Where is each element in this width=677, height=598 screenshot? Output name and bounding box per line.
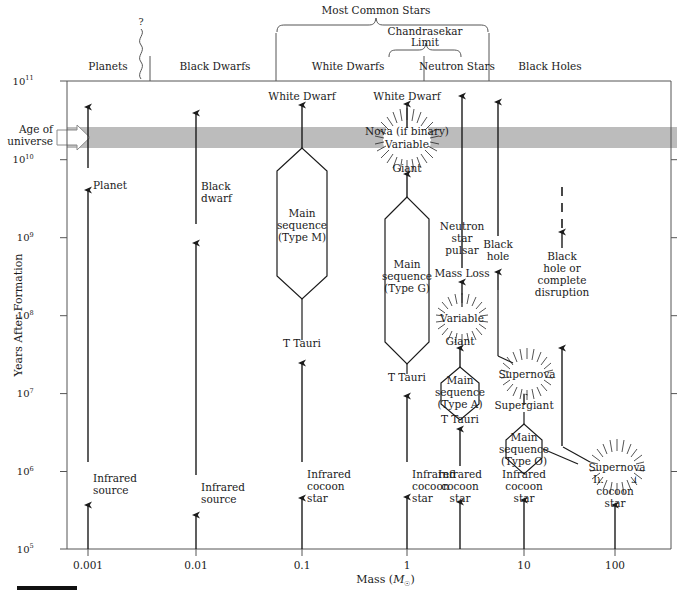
y-tick: 109: [0, 228, 67, 243]
y-tick-exponent: 5: [30, 542, 34, 550]
y-axis-title: Years After Formation: [12, 254, 25, 378]
stage-label: Black: [483, 238, 513, 250]
x-axis-title: Mass (M☉): [332, 573, 432, 588]
x-axis-title-main: Mass (: [356, 573, 393, 586]
y-tick: 107: [0, 384, 67, 399]
stage-label: Infrared: [307, 468, 351, 480]
uncertainty-wavy-line: ?: [138, 16, 143, 79]
stage-label: source: [93, 484, 129, 496]
stage-label: dwarf: [201, 192, 233, 204]
stage-label: sequence: [277, 219, 327, 231]
stage-label: (Type G): [384, 282, 430, 294]
stage-label: Main: [446, 374, 473, 386]
stage-label: star: [412, 492, 434, 504]
stage-label: Variable: [384, 138, 429, 150]
y-tick-mantissa: 10: [17, 388, 30, 399]
x-tick-label: 100: [605, 559, 625, 571]
x-tick: 0.1: [294, 549, 311, 571]
y-tick-exponent: 8: [30, 309, 34, 317]
x-tick: 0.01: [184, 549, 207, 571]
stage-label: Main: [510, 431, 537, 443]
x-tick: 1: [404, 549, 411, 571]
bracket-label-most-common-stars: Most Common Stars: [322, 4, 431, 16]
stage-label: star: [514, 492, 536, 504]
y-tick-mantissa: 10: [17, 544, 30, 555]
y-tick-exponent: 6: [30, 465, 34, 473]
svg-text:106: 106: [0, 462, 56, 477]
x-tick: 100: [605, 549, 625, 571]
x-axis: 0.001 0.01 0.1 1 10 100 Mass (M☉): [73, 549, 625, 588]
figure-canvas: Age of universe 1011 1010 109: [0, 0, 677, 598]
stage-label: sequence: [382, 270, 432, 282]
track-10: Infrared cocoon star Main sequence (Type…: [483, 102, 578, 549]
stage-label: Infrared: [438, 468, 482, 480]
top-category-neutron-stars: Neutron Stars: [419, 60, 495, 72]
stage-label: Variable: [439, 312, 484, 324]
stage-label: Black: [547, 250, 577, 262]
y-tick-mantissa: 10: [17, 466, 30, 477]
y-tick: 1010: [0, 150, 67, 165]
y-tick-exponent: 11: [25, 74, 33, 82]
uncertainty-question-mark: ?: [138, 16, 143, 27]
svg-text:105: 105: [0, 539, 56, 554]
stage-label: Main: [288, 207, 315, 219]
stage-label: White Dwarf: [373, 90, 441, 102]
stage-label: Main: [393, 258, 420, 270]
stage-label: star: [605, 497, 627, 509]
stage-label: star: [452, 232, 474, 244]
stage-label: Neutron: [440, 220, 485, 232]
stage-label: hole: [487, 250, 510, 262]
y-tick-mantissa: 10: [17, 232, 30, 243]
x-axis-title-symbol: M: [392, 573, 405, 586]
x-tick: 10: [517, 549, 530, 571]
stage-label: pulsar: [445, 244, 479, 256]
y-tick-mantissa: 10: [13, 154, 26, 165]
svg-text:109: 109: [0, 228, 56, 243]
stage-label: Supernova: [588, 461, 645, 473]
stage-label: cocoon: [307, 480, 345, 492]
stage-label: Mass Loss: [434, 267, 489, 279]
y-tick: 108: [0, 306, 67, 321]
stage-label: star: [307, 492, 329, 504]
top-category-planets: Planets: [88, 60, 127, 72]
y-tick-right: [671, 160, 677, 472]
track-0.1: Infrared cocoon star T Tauri Main sequen…: [268, 90, 351, 549]
x-axis-title-close: ): [410, 573, 414, 586]
stage-label: Supernova: [498, 368, 555, 380]
x-tick-label: 0.1: [294, 559, 311, 571]
stage-label: disruption: [535, 286, 590, 298]
y-tick: 105: [0, 539, 67, 554]
top-category-black-dwarfs: Black Dwarfs: [180, 60, 251, 72]
age-of-universe-label-line1: Age of: [18, 123, 54, 135]
y-tick-mantissa: 10: [13, 76, 26, 87]
age-of-universe-label-line2: universe: [7, 135, 53, 147]
x-tick-label: 1: [404, 559, 411, 571]
svg-text:1010: 1010: [0, 150, 56, 165]
x-tick-label: 0.001: [73, 559, 103, 571]
stage-label: Black: [201, 180, 231, 192]
plot-frame: [67, 81, 671, 549]
stage-label: Infrared: [93, 472, 137, 484]
stage-label: Planet: [93, 179, 128, 191]
stage-label: (Type O): [501, 455, 547, 467]
bracket-chandrasekar-limit: Chandrasekar Limit: [387, 25, 463, 57]
top-category-black-holes: Black Holes: [518, 60, 581, 72]
figure-rule: [17, 586, 77, 590]
stellar-evolution-diagram: Age of universe 1011 1010 109: [0, 0, 677, 598]
stage-label: hole or: [543, 262, 581, 274]
x-tick-label: 10: [517, 559, 530, 571]
top-category-white-dwarfs: White Dwarfs: [312, 60, 385, 72]
stage-label: source: [201, 493, 237, 505]
x-tick: 0.001: [73, 549, 103, 571]
y-tick: 1011: [0, 71, 67, 86]
track-0.001: Infrared source Planet: [88, 107, 137, 549]
stage-label: cocoon: [441, 480, 479, 492]
y-tick-exponent: 9: [30, 231, 34, 239]
stage-label: cocoon: [505, 480, 543, 492]
stage-label: Infrared: [201, 481, 245, 493]
x-tick-label: 0.01: [184, 559, 207, 571]
track-0.01: Infrared source Black dwarf: [196, 113, 245, 549]
stage-label: (Type A): [438, 398, 483, 410]
track-100: Infrared cocoon star Supernova: [535, 185, 646, 549]
stage-label: complete: [538, 274, 587, 286]
